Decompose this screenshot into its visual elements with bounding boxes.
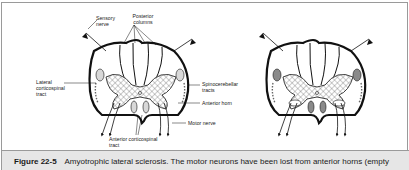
- spinal-cord-diagram: [2, 3, 409, 150]
- figure-frame: Sensory nerve Posterior columns Lateral …: [1, 2, 408, 170]
- figure-number: Figure 22-5: [14, 157, 57, 166]
- diagram-area: Sensory nerve Posterior columns Lateral …: [2, 3, 409, 150]
- label-spinocerebellar-tracts: Spinocerebellar tracts: [202, 81, 242, 93]
- figure-caption: Figure 22-5 Amyotrophic lateral sclerosi…: [2, 150, 409, 170]
- label-motor-nerve: Motor nerve: [188, 120, 216, 126]
- label-sensory-nerve: Sensory nerve: [96, 15, 126, 27]
- figure-caption-text: Amyotrophic lateral sclerosis. The motor…: [64, 157, 388, 166]
- label-anterior-corticospinal-tract: Anterior corticospinal tract: [109, 136, 165, 148]
- normal-spinal-cord: [64, 20, 200, 135]
- als-spinal-cord: [259, 33, 373, 135]
- label-posterior-columns: Posterior columns: [128, 13, 158, 25]
- label-anterior-horn: Anterior horn: [202, 100, 232, 106]
- label-lateral-corticospinal-tract: Lateral corticospinal tract: [36, 79, 66, 97]
